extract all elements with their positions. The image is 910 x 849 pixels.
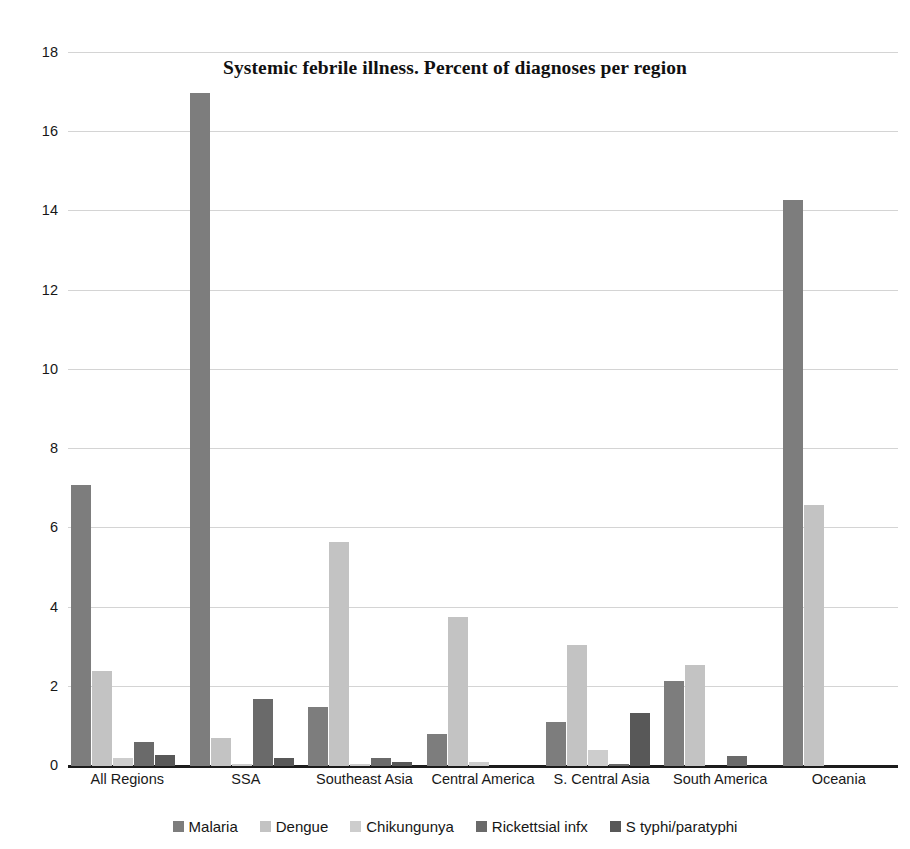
bar[interactable] (427, 734, 447, 766)
bar[interactable] (469, 762, 489, 766)
y-tick-label: 18 (12, 44, 58, 60)
bar[interactable] (630, 713, 650, 766)
chart-legend: MalariaDengueChikungunyaRickettsial infx… (0, 818, 910, 835)
bar[interactable] (350, 764, 370, 766)
bar[interactable] (588, 750, 608, 766)
legend-item[interactable]: S typhi/paratyphi (610, 818, 738, 835)
y-tick-label: 6 (12, 519, 58, 535)
y-tick-label: 12 (12, 282, 58, 298)
legend-swatch-icon (260, 821, 271, 832)
bar-group (190, 53, 294, 766)
legend-item[interactable]: Malaria (173, 818, 238, 835)
bar-group (427, 53, 531, 766)
y-tick-label: 0 (12, 757, 58, 773)
y-axis: 024681012141618 (0, 52, 58, 766)
y-tick-label: 2 (12, 678, 58, 694)
bar[interactable] (546, 722, 566, 766)
bar[interactable] (371, 758, 391, 766)
bar[interactable] (155, 755, 175, 766)
plot-area (68, 52, 898, 766)
bar[interactable] (448, 617, 468, 766)
legend-label: S typhi/paratyphi (626, 818, 738, 835)
bar[interactable] (274, 758, 294, 766)
bar[interactable] (92, 671, 112, 766)
legend-item[interactable]: Dengue (260, 818, 329, 835)
bar-group (71, 53, 175, 766)
bar-group (308, 53, 412, 766)
bar[interactable] (232, 764, 252, 766)
bar[interactable] (609, 764, 629, 766)
bar[interactable] (567, 645, 587, 766)
y-tick-label: 10 (12, 361, 58, 377)
bar-group (546, 53, 650, 766)
bar[interactable] (685, 665, 705, 766)
bar[interactable] (113, 758, 133, 766)
bar-group (783, 53, 887, 766)
bar[interactable] (134, 742, 154, 766)
bar-chart: Systemic febrile illness. Percent of dia… (0, 0, 910, 849)
legend-item[interactable]: Chikungunya (350, 818, 454, 835)
legend-label: Malaria (189, 818, 238, 835)
legend-swatch-icon (476, 821, 487, 832)
y-tick-label: 8 (12, 440, 58, 456)
bar[interactable] (308, 707, 328, 766)
bar[interactable] (392, 762, 412, 766)
x-tick-label: Central America (431, 771, 534, 787)
legend-label: Rickettsial infx (492, 818, 588, 835)
y-tick-label: 14 (12, 202, 58, 218)
x-tick-label: All Regions (91, 771, 164, 787)
x-axis: All RegionsSSASoutheast AsiaCentral Amer… (68, 771, 898, 795)
legend-swatch-icon (610, 821, 621, 832)
legend-swatch-icon (173, 821, 184, 832)
bar-group (664, 53, 768, 766)
legend-label: Dengue (276, 818, 329, 835)
legend-item[interactable]: Rickettsial infx (476, 818, 588, 835)
legend-swatch-icon (350, 821, 361, 832)
bar[interactable] (71, 485, 91, 766)
y-tick-label: 4 (12, 599, 58, 615)
y-tick-label: 16 (12, 123, 58, 139)
bar[interactable] (329, 542, 349, 766)
bar[interactable] (783, 200, 803, 766)
bar[interactable] (664, 681, 684, 766)
x-tick-label: S. Central Asia (554, 771, 650, 787)
bar[interactable] (253, 699, 273, 766)
x-tick-label: Oceania (812, 771, 866, 787)
bar[interactable] (190, 93, 210, 766)
x-tick-label: SSA (231, 771, 260, 787)
bar[interactable] (211, 738, 231, 766)
bar[interactable] (727, 756, 747, 766)
legend-label: Chikungunya (366, 818, 454, 835)
x-tick-label: South America (673, 771, 767, 787)
bar[interactable] (804, 505, 824, 766)
x-tick-label: Southeast Asia (316, 771, 413, 787)
